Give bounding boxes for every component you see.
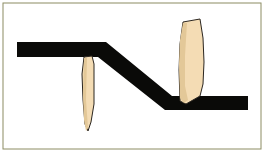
illustration-canvas [0, 0, 264, 152]
illustration-figure [0, 0, 264, 152]
